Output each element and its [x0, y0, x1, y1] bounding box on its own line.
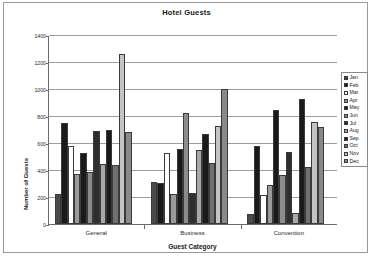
- legend-label: Sep: [350, 135, 359, 143]
- legend-item-aug[interactable]: Aug: [343, 127, 366, 135]
- legend-swatch-icon: [344, 83, 348, 87]
- legend-swatch-icon: [344, 121, 348, 125]
- legend-item-sep[interactable]: Sep: [343, 135, 366, 143]
- legend-item-apr[interactable]: Apr: [343, 97, 366, 105]
- legend-swatch-icon: [344, 114, 348, 118]
- legend-item-nov[interactable]: Nov: [343, 150, 366, 158]
- legend-swatch-icon: [344, 76, 348, 80]
- bar-dec-convention[interactable]: [318, 127, 324, 224]
- bar-dec-business[interactable]: [221, 89, 227, 224]
- x-category-label: General: [48, 230, 144, 236]
- legend-label: Oct: [350, 142, 358, 150]
- x-category-label: Convention: [241, 230, 337, 236]
- legend-label: Jan: [350, 74, 358, 82]
- chart-frame: Hotel Guests Number of Guests 0200400600…: [3, 2, 368, 253]
- y-tick-label: 1200: [26, 60, 46, 66]
- y-tick-label: 200: [26, 195, 46, 201]
- legend-item-feb[interactable]: Feb: [343, 82, 366, 90]
- legend-item-oct[interactable]: Oct: [343, 142, 366, 150]
- legend-swatch-icon: [344, 159, 348, 163]
- y-tick-label: 1400: [26, 33, 46, 39]
- legend-item-may[interactable]: May: [343, 104, 366, 112]
- bar-group: [242, 35, 338, 224]
- legend-label: Nov: [350, 150, 359, 158]
- legend-label: Aug: [350, 127, 359, 135]
- y-axis-ticks: 0200400600800100012001400: [22, 36, 46, 225]
- legend-item-mar[interactable]: Mar: [343, 89, 366, 97]
- bar-dec-general[interactable]: [125, 132, 131, 224]
- y-tick-label: 400: [26, 168, 46, 174]
- bar-group: [49, 35, 145, 224]
- legend-item-jun[interactable]: Jun: [343, 112, 366, 120]
- legend-swatch-icon: [344, 91, 348, 95]
- legend-item-dec[interactable]: Dec: [343, 158, 366, 166]
- plot-area: [48, 36, 337, 225]
- legend-label: Jul: [350, 120, 357, 128]
- legend-label: May: [350, 104, 360, 112]
- legend-item-jan[interactable]: Jan: [343, 74, 366, 82]
- legend-label: Mar: [350, 89, 359, 97]
- legend-swatch-icon: [344, 129, 348, 133]
- y-tick-label: 1000: [26, 87, 46, 93]
- y-tick-label: 0: [26, 222, 46, 228]
- legend-swatch-icon: [344, 106, 348, 110]
- y-tick-label: 600: [26, 141, 46, 147]
- bar-group: [145, 35, 241, 224]
- x-category-separator: [144, 225, 145, 229]
- chart-legend: JanFebMarAprMayJunJulAugSepOctNovDec: [341, 72, 368, 167]
- y-tick-mark: [46, 225, 49, 226]
- legend-swatch-icon: [344, 99, 348, 103]
- chart-title: Hotel Guests: [4, 8, 369, 17]
- y-tick-label: 800: [26, 114, 46, 120]
- legend-label: Dec: [350, 158, 359, 166]
- legend-label: Feb: [350, 82, 359, 90]
- legend-label: Apr: [350, 97, 358, 105]
- x-category-separator: [241, 225, 242, 229]
- legend-label: Jun: [350, 112, 358, 120]
- x-category-label: Business: [144, 230, 240, 236]
- legend-swatch-icon: [344, 137, 348, 141]
- legend-swatch-icon: [344, 152, 348, 156]
- x-axis-title: Guest Category: [48, 243, 337, 250]
- legend-item-jul[interactable]: Jul: [343, 120, 366, 128]
- legend-swatch-icon: [344, 144, 348, 148]
